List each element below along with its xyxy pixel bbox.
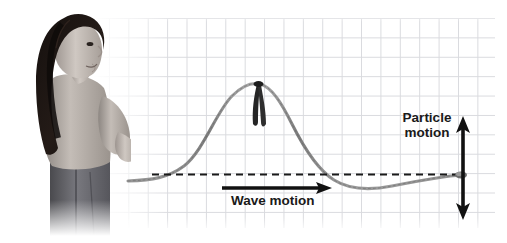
particle-motion-label: Particle motion	[396, 111, 458, 140]
wave-motion-label: Wave motion	[231, 194, 315, 209]
particle-motion-line-1: Particle	[396, 111, 458, 126]
ribbon-marker	[253, 81, 266, 126]
particle-motion-arrow	[456, 116, 470, 220]
particle-motion-line-2: motion	[396, 126, 458, 141]
rope-end-marker	[455, 172, 467, 179]
wave-motion-figure: Particle motion Wave motion	[0, 0, 507, 243]
